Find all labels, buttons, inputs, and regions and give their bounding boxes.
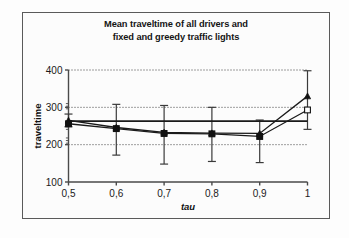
x-tick-label-3: 0,8	[205, 188, 219, 199]
y-tick-label-2: 300	[46, 102, 63, 113]
marker-square-2	[161, 131, 167, 137]
y-tick-label-1: 200	[46, 139, 63, 150]
error-bars	[65, 71, 312, 164]
x-tick-label-0: 0,5	[62, 188, 76, 199]
x-tick-label-5: 1	[305, 188, 311, 199]
marker-square-3	[209, 131, 215, 137]
x-tick-label-1: 0,6	[109, 188, 123, 199]
marker-triangle-5	[304, 93, 310, 99]
tick-labels: 1002003004000,50,60,70,80,91	[46, 65, 311, 199]
figure-root: Mean traveltime of all drivers and fixed…	[0, 0, 349, 238]
x-axis-title: tau	[181, 201, 195, 212]
y-axis-title: traveltime	[32, 104, 43, 149]
series-lines	[69, 96, 308, 136]
x-tick-label-2: 0,7	[157, 188, 171, 199]
y-tick-label-0: 100	[46, 177, 63, 188]
marker-square-5	[305, 107, 311, 113]
marker-square-4	[257, 134, 263, 140]
x-tick-label-4: 0,9	[253, 188, 267, 199]
y-tick-label-3: 400	[46, 65, 63, 76]
marker-square-0	[66, 121, 72, 127]
axis-lines	[65, 70, 308, 186]
chart-plot: 1002003004000,50,60,70,80,91 tautravelti…	[0, 0, 349, 238]
marker-square-1	[113, 126, 119, 132]
